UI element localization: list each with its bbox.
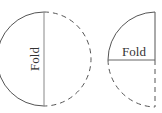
left-figure: Fold [0, 12, 91, 106]
left-dashed-semicircle [44, 12, 91, 106]
fold-diagram: Fold Fold [0, 0, 162, 113]
right-dashed-quarter-arc [108, 60, 155, 107]
right-fold-label: Fold [122, 44, 146, 59]
left-fold-label: Fold [27, 47, 42, 71]
right-figure: Fold [108, 12, 155, 107]
